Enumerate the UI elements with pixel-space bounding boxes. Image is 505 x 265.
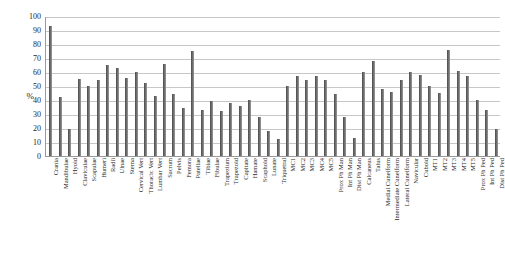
x-axis-tick-label: Prox Ph Ped [479, 158, 486, 190]
bar [125, 78, 128, 156]
x-axis-tick-label: Medial Cuneiform [384, 158, 391, 206]
x-axis-tick-label-text: Talus [374, 158, 381, 172]
bar [362, 72, 365, 156]
x-axis-tick-label-text: MT4 [460, 158, 467, 171]
y-axis-tick-label: 100 [17, 13, 41, 21]
x-axis-tick-label-text: MC2 [299, 158, 306, 171]
x-axis-tick-label: Crania [52, 158, 59, 175]
y-axis-tick-label: 10 [17, 139, 41, 147]
plot-area [45, 17, 500, 157]
x-axis-tick-label-text: MC4 [318, 158, 325, 171]
x-axis-tick-label-text: Femora [185, 158, 192, 178]
x-axis-tick-label: MC2 [299, 158, 306, 171]
bar [78, 79, 81, 156]
x-axis-tick-label: MT1 [431, 158, 438, 171]
x-axis-tick-label: Sacrum [166, 158, 173, 178]
bar [172, 94, 175, 156]
bar [372, 61, 375, 156]
x-axis-tick-label-text: Scapulae [90, 158, 97, 181]
x-axis-tick-label-text: Pelvis [175, 158, 182, 174]
x-axis-tick-label: Fibulae [213, 158, 220, 178]
x-axis-tick-label-text: Trapezoid [232, 158, 239, 184]
x-axis-tick-label: MC5 [327, 158, 334, 171]
x-axis-tick-label: Navicular [412, 158, 419, 184]
x-axis-tick-label-text: Int Ph Man [346, 158, 353, 187]
x-axis-tick-label-text: Trapezium [223, 158, 230, 186]
x-axis-tick-label-text: MC1 [289, 158, 296, 171]
x-axis-tick-label: MC1 [289, 158, 296, 171]
x-axis-tick-label: Int Ph Man [346, 158, 353, 187]
bar [476, 100, 479, 156]
x-axis-tick-label-text: Prox Ph Ped [479, 158, 486, 190]
bar [201, 110, 204, 156]
y-axis-tick-label: 40 [17, 97, 41, 105]
bar [68, 129, 71, 156]
bar [495, 129, 498, 156]
x-axis-tick-label-text: Tibiae [204, 158, 211, 174]
y-axis-tick-labels: 0102030405060708090100 [17, 17, 41, 157]
bar [400, 80, 403, 156]
bar [419, 75, 422, 156]
bar [135, 72, 138, 156]
x-axis-tick-label: Thoracic Vert [147, 158, 154, 193]
x-axis-tick-label-text: Scaphoid [261, 158, 268, 182]
x-axis-tick-label: Patellae [194, 158, 201, 179]
bar [343, 117, 346, 156]
x-axis-tick-label-text: Medial Cuneiform [384, 158, 391, 206]
x-axis-tick-label: Capitate [242, 158, 249, 180]
x-axis-tick-label: Humeri [100, 158, 107, 178]
bar [59, 97, 62, 156]
x-axis-tick-label: MT2 [441, 158, 448, 171]
bar [144, 83, 147, 156]
bar [116, 68, 119, 156]
bar [390, 92, 393, 156]
x-axis-tick-label: Dist Ph Man [355, 158, 362, 191]
x-axis-tick-label-text: Ulnae [118, 158, 125, 174]
bar [457, 71, 460, 156]
bar [154, 96, 157, 156]
bar [258, 117, 261, 156]
x-axis-tick-label: Prox Ph Man [337, 158, 344, 192]
x-axis-tick-label: Hyoid [71, 158, 78, 174]
x-axis-tick-label-text: MT2 [441, 158, 448, 171]
x-axis-tick-label: Cuboid [422, 158, 429, 177]
x-axis-tick-label-text: Lumbar Vert [156, 158, 163, 191]
x-axis-tick-label-text: Fibulae [213, 158, 220, 178]
x-axis-tick-label: MT5 [469, 158, 476, 171]
x-axis-tick-label-text: Prox Ph Man [337, 158, 344, 192]
x-axis-tick-label-text: Sacrum [166, 158, 173, 178]
bars-series [46, 17, 500, 156]
x-axis-tick-label-text: MC3 [308, 158, 315, 171]
bar [409, 72, 412, 156]
bar [438, 93, 441, 156]
x-axis-tick-label: Scapulae [90, 158, 97, 181]
x-axis-tick-label: Claviculae [81, 158, 88, 186]
bar [353, 138, 356, 156]
bar [315, 76, 318, 156]
bar [163, 64, 166, 156]
x-axis-tick-label: Lateral Cuneiform [403, 158, 410, 206]
x-axis-tick-label-text: MT1 [431, 158, 438, 171]
y-axis-tick-label: 0 [17, 153, 41, 161]
bar [239, 106, 242, 156]
bar [229, 103, 232, 156]
bar [267, 131, 270, 156]
x-axis-tick-label: Radii [109, 158, 116, 172]
x-axis-tick-label-text: Triquetral [280, 158, 287, 184]
bar [428, 86, 431, 156]
bar [191, 51, 194, 156]
y-axis-tick-label: 60 [17, 69, 41, 77]
x-axis-tick-label-text: Calcaneus [365, 158, 372, 185]
x-axis-tick-label: Lumbar Vert [156, 158, 163, 191]
x-axis-tick-label-text: Cuboid [422, 158, 429, 177]
x-axis-tick-label: MC3 [308, 158, 315, 171]
x-axis-tick-label-text: Capitate [242, 158, 249, 180]
x-axis-tick-label-text: Radii [109, 158, 116, 172]
x-axis-tick-label-text: Cervical Vert [137, 158, 144, 192]
bar [296, 76, 299, 156]
x-axis-tick-label: Ulnae [118, 158, 125, 174]
y-axis-tick-label: 50 [17, 83, 41, 91]
x-axis-tick-label: Intermediate Cuneiform [393, 158, 400, 221]
x-axis-tick-label: Trapezium [223, 158, 230, 186]
